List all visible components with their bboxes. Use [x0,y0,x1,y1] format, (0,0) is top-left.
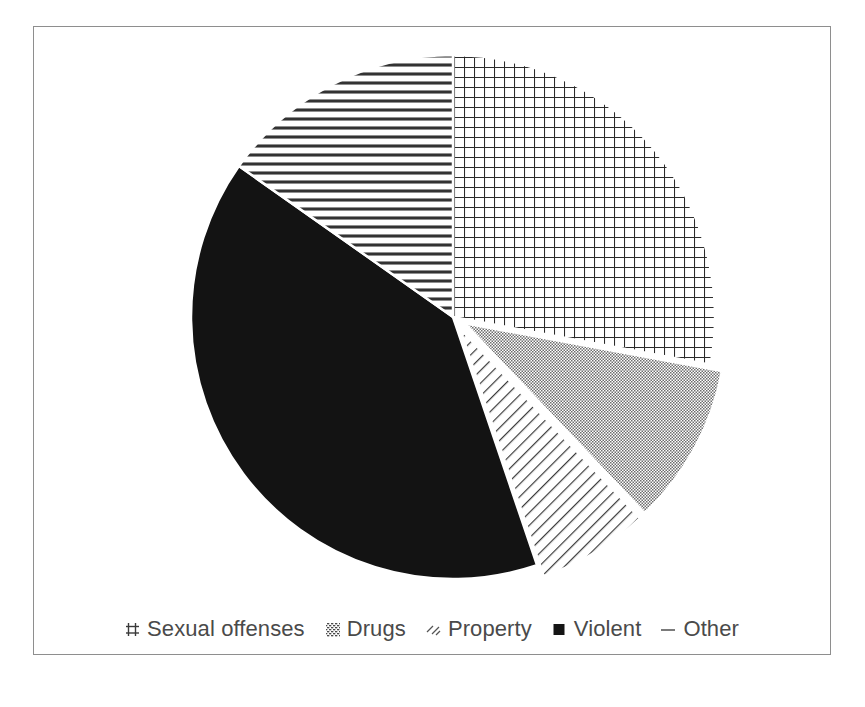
horizontal-line-swatch-icon [661,622,676,637]
diagonal-hatch-swatch-icon [426,622,441,637]
legend-item-drugs[interactable]: Drugs [325,616,406,642]
legend-item-label: Property [448,616,532,642]
legend-item-label: Violent [574,616,642,642]
figure-page: Sexual offenses 27.9%Drugs 10%Property 6… [0,0,865,707]
pie-slice-group: Sexual offenses 27.9%Drugs 10%Property 6… [191,55,722,579]
pie-chart-svg: Sexual offenses 27.9%Drugs 10%Property 6… [34,27,830,597]
pie-slice-sexual-offenses[interactable]: Sexual offenses 27.9% [453,55,715,365]
legend-item-violent[interactable]: Violent [552,616,642,642]
legend-item-label: Drugs [347,616,406,642]
chart-legend: Sexual offensesDrugsPropertyViolentOther [34,605,830,653]
solid-swatch-icon [552,622,567,637]
pie-chart-area: Sexual offenses 27.9%Drugs 10%Property 6… [34,27,830,597]
figure-frame: Sexual offenses 27.9%Drugs 10%Property 6… [33,26,831,655]
dotted-swatch-icon [325,622,340,637]
legend-item-label: Other [683,616,739,642]
legend-item-sexual-offenses[interactable]: Sexual offenses [125,616,305,642]
legend-item-property[interactable]: Property [426,616,532,642]
grid-swatch-icon [125,622,140,637]
legend-item-label: Sexual offenses [147,616,305,642]
legend-item-other[interactable]: Other [661,616,739,642]
